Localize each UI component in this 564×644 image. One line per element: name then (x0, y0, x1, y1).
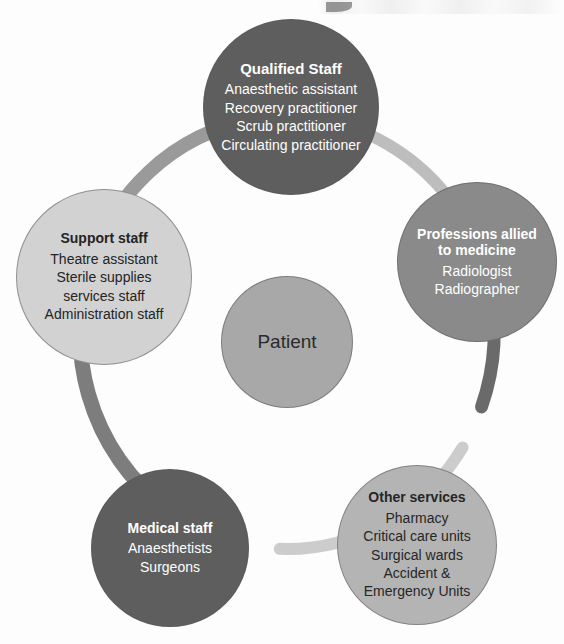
node-item: Radiologist (435, 262, 520, 280)
node-item: Administration staff (45, 305, 164, 323)
node-item: Sterile supplies (45, 268, 164, 286)
node-item: Emergency Units (363, 582, 470, 600)
node-item: Anaesthetic assistant (221, 80, 360, 98)
node-item: Surgical wards (363, 546, 470, 564)
node-title: Professions allied to medicine (415, 226, 539, 259)
node-item: Pharmacy (363, 509, 470, 527)
node-qualified-staff[interactable]: Qualified Staff Anaesthetic assistantRec… (203, 19, 379, 195)
node-items: Anaesthetic assistantRecovery practition… (221, 80, 360, 154)
node-title: Medical staff (128, 520, 213, 537)
node-item: Recovery practitioner (221, 99, 360, 117)
node-title: Qualified Staff (240, 60, 342, 78)
node-items: PharmacyCritical care unitsSurgical ward… (363, 509, 470, 601)
node-item: Radiographer (435, 280, 520, 298)
node-item: services staff (45, 287, 164, 305)
node-item: Accident & (363, 564, 470, 582)
diagram-canvas: Qualified Staff Anaesthetic assistantRec… (0, 0, 564, 644)
node-other-services[interactable]: Other services PharmacyCritical care uni… (337, 465, 497, 625)
node-item: Surgeons (128, 558, 212, 576)
node-support-staff[interactable]: Support staff Theatre assistantSterile s… (16, 189, 192, 365)
node-professions-allied-to-medicine[interactable]: Professions allied to medicine Radiologi… (397, 182, 557, 342)
node-item: Theatre assistant (45, 250, 164, 268)
node-items: RadiologistRadiographer (435, 262, 520, 299)
node-medical-staff[interactable]: Medical staff AnaesthetistsSurgeons (91, 469, 249, 627)
node-items: AnaesthetistsSurgeons (128, 539, 212, 576)
node-title: Support staff (60, 230, 147, 247)
center-label: Patient (257, 331, 316, 353)
node-patient-center[interactable]: Patient (221, 276, 353, 408)
node-title: Other services (368, 489, 465, 506)
node-items: Theatre assistantSterile suppliesservice… (45, 250, 164, 324)
node-item: Anaesthetists (128, 539, 212, 557)
node-item: Circulating practitioner (221, 136, 360, 154)
node-item: Critical care units (363, 527, 470, 545)
node-item: Scrub practitioner (221, 117, 360, 135)
